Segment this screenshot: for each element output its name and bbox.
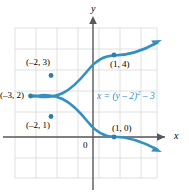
graph-figure: (–2, 3) (–3, 2) (–2, 1) (1, 4) (1, 0) 0 … <box>0 0 189 195</box>
parabola-curve <box>31 40 162 164</box>
point-label-1-0: (1, 0) <box>112 124 132 133</box>
equation-tail: – 3 <box>140 91 154 101</box>
grid-lines <box>15 28 157 178</box>
equation-label: x = (y – 2)2 – 3 <box>97 90 155 102</box>
coordinate-plane <box>0 0 189 195</box>
point-marker <box>28 94 33 99</box>
y-axis-label: y <box>91 4 95 14</box>
point-marker <box>49 73 54 78</box>
point-marker <box>112 53 117 58</box>
x-axis-label: x <box>174 131 178 141</box>
point-label-1-4: (1, 4) <box>110 60 130 69</box>
point-label-neg2-1: (–2, 1) <box>26 121 50 130</box>
point-marker <box>49 114 54 119</box>
point-label-neg3-2: (–3, 2) <box>0 91 24 100</box>
point-marker <box>112 135 117 140</box>
point-label-neg2-3: (–2, 3) <box>26 58 50 67</box>
equation-base: x = (y – 2) <box>97 91 137 101</box>
origin-label: 0 <box>83 141 88 150</box>
y-axis <box>89 16 97 190</box>
